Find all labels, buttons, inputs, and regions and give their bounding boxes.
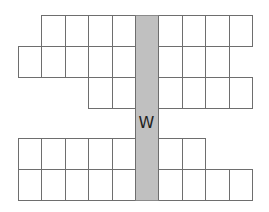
- grid-cell: [182, 46, 206, 78]
- grid-cell: [229, 169, 253, 201]
- grid-cell: [205, 169, 230, 201]
- grid-cell: [65, 169, 89, 201]
- grid-cell: [65, 138, 89, 170]
- grid-cell: [182, 77, 206, 109]
- grid-cell: [112, 15, 136, 47]
- grid-cell: [229, 77, 253, 109]
- grid-cell: [182, 138, 206, 170]
- grid-cell: [158, 15, 183, 47]
- grid-cell: [88, 46, 113, 78]
- grid-cell: [182, 15, 206, 47]
- grid-cell: [18, 169, 42, 201]
- grid-cell: [41, 138, 66, 170]
- grid-cell: [41, 15, 66, 47]
- grid-cell: [18, 46, 42, 78]
- grid-cell: [88, 138, 113, 170]
- grid-cell: [112, 138, 136, 170]
- grid-cell: [205, 46, 230, 78]
- grid-cell: [65, 46, 89, 78]
- grid-cell: [18, 138, 42, 170]
- grid-cell: [205, 15, 230, 47]
- column-label-w: W: [135, 113, 158, 132]
- grid-cell: [182, 169, 206, 201]
- grid-cell: [65, 15, 89, 47]
- grid-cell: [41, 169, 66, 201]
- grid-cell: [88, 15, 113, 47]
- grid-cell: [205, 77, 230, 109]
- grid-cell: [88, 169, 113, 201]
- grid-cell: [112, 169, 136, 201]
- shaded-column-w: [135, 15, 159, 201]
- grid-cell: [158, 77, 183, 109]
- grid-cell: [158, 169, 183, 201]
- grid-cell: [158, 46, 183, 78]
- grid-cell: [229, 15, 253, 47]
- grid-cell: [112, 77, 136, 109]
- grid-cell: [112, 46, 136, 78]
- grid-cell: [158, 138, 183, 170]
- grid-cell: [41, 46, 66, 78]
- grid-cell: [88, 77, 113, 109]
